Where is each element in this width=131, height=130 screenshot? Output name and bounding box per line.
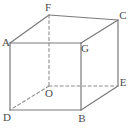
edge-A-F [10,15,49,43]
vertex-label-O: O [45,88,53,99]
edge-O-D [10,86,49,110]
edge-C-G [81,20,118,43]
solid-edges [10,15,118,110]
vertex-label-A: A [2,37,10,48]
cube-diagram [0,0,131,130]
geometry-figure: AFCGDOEB [0,0,131,130]
edge-B-E [81,86,118,110]
edge-F-C [49,15,118,20]
vertex-label-E: E [120,77,127,88]
vertex-label-D: D [3,112,11,123]
vertex-label-F: F [45,2,51,13]
hidden-edges [10,15,118,110]
vertex-label-C: C [119,10,126,21]
vertex-label-G: G [81,43,89,54]
vertex-label-B: B [78,113,85,124]
